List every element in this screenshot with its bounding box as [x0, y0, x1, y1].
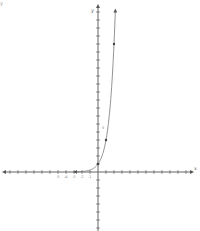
- x-tick-label: -2: [80, 175, 84, 179]
- x-tick-label: -3: [72, 175, 76, 179]
- x-axis-label: x: [194, 165, 197, 171]
- data-point: [97, 163, 99, 165]
- axes: [4, 6, 192, 231]
- curve-top-arrow-icon: [114, 8, 118, 12]
- curve-left-arrow-icon: [73, 170, 77, 174]
- y-tick-label-5: 5: [102, 126, 104, 130]
- x-axis-left-arrow-icon: [2, 170, 6, 174]
- y-axis-label: y: [91, 7, 94, 13]
- data-point: [105, 139, 107, 141]
- data-point: [113, 43, 115, 45]
- x-tick-label: -5: [56, 175, 60, 179]
- coordinate-plane: [0, 0, 200, 231]
- marked-points: [97, 43, 115, 165]
- x-tick-label: -1: [88, 175, 92, 179]
- y-axis-up-arrow-icon: [96, 4, 100, 8]
- exponential-curve: [74, 10, 115, 171]
- x-tick-label: -4: [64, 175, 68, 179]
